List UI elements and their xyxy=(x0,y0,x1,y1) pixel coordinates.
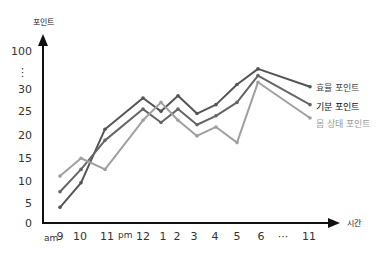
x-tick-label: 11 xyxy=(100,230,114,243)
y-tick-label: 20 xyxy=(18,129,32,142)
series-line xyxy=(60,82,310,176)
legend: 효율 포인트기분 포인트몸 상태 포인트 xyxy=(316,83,370,129)
data-point xyxy=(79,181,83,185)
data-point xyxy=(214,114,218,118)
data-point xyxy=(58,174,62,178)
data-point xyxy=(79,156,83,160)
data-point xyxy=(308,116,312,120)
data-point xyxy=(195,123,199,127)
data-point xyxy=(256,74,260,78)
data-point xyxy=(103,168,107,172)
x-tick-labels: ampm9101112123456···11 xyxy=(44,230,316,243)
y-axis-arrow-icon xyxy=(38,34,48,46)
y-tick-labels: 051015202530⋮100 xyxy=(11,45,32,230)
x-tick-label: ··· xyxy=(278,230,289,243)
legend-label: 효율 포인트 xyxy=(316,83,359,93)
data-point xyxy=(103,139,107,143)
x-tick-label: 5 xyxy=(234,230,241,243)
y-tick-label: 25 xyxy=(18,105,32,118)
data-point xyxy=(79,168,83,172)
x-axis-arrow-icon xyxy=(328,218,340,228)
data-point xyxy=(141,96,145,100)
data-series xyxy=(58,67,312,209)
y-tick-label: 100 xyxy=(11,45,32,58)
data-point xyxy=(176,94,180,98)
data-point xyxy=(308,103,312,107)
data-point xyxy=(256,81,260,85)
data-point xyxy=(159,110,163,114)
data-point xyxy=(159,121,163,125)
data-point xyxy=(58,206,62,210)
data-point xyxy=(235,83,239,87)
data-point xyxy=(235,101,239,105)
data-point xyxy=(308,85,312,89)
x-tick-label: 1 xyxy=(160,230,167,243)
y-tick-label: 30 xyxy=(18,83,32,96)
series-line xyxy=(60,69,310,207)
data-point xyxy=(159,101,163,105)
x-tick-label: 2 xyxy=(174,230,181,243)
data-point xyxy=(235,141,239,145)
x-tick-label: 9 xyxy=(57,230,64,243)
x-tick-label: 10 xyxy=(73,230,87,243)
y-tick-label: 15 xyxy=(18,152,32,165)
data-point xyxy=(214,125,218,129)
line-chart: 포인트 시간 051015202530⋮100 ampm910111212345… xyxy=(0,0,385,253)
data-point xyxy=(176,118,180,122)
y-tick-label: ⋮ xyxy=(17,66,28,79)
legend-label: 몸 상태 포인트 xyxy=(316,119,370,129)
y-axis-title: 포인트 xyxy=(33,17,54,27)
data-point xyxy=(141,107,145,111)
y-tick-label: 0 xyxy=(25,217,32,230)
data-point xyxy=(195,134,199,138)
x-axis-title: 시간 xyxy=(347,218,362,228)
y-tick-label: 5 xyxy=(25,197,32,210)
data-point xyxy=(141,118,145,122)
data-point xyxy=(256,67,260,71)
x-tick-label: 6 xyxy=(258,230,265,243)
x-tick-label: 3 xyxy=(191,230,198,243)
axes xyxy=(38,34,340,228)
data-point xyxy=(176,107,180,111)
legend-label: 기분 포인트 xyxy=(316,102,359,112)
data-point xyxy=(103,127,107,131)
x-tick-label: 12 xyxy=(136,230,150,243)
data-point xyxy=(58,190,62,194)
x-tick-label: 4 xyxy=(212,230,219,243)
x-tick-label: 11 xyxy=(302,230,316,243)
pm-label: pm xyxy=(118,230,132,240)
data-point xyxy=(214,103,218,107)
data-point xyxy=(195,112,199,116)
y-tick-label: 10 xyxy=(18,175,32,188)
